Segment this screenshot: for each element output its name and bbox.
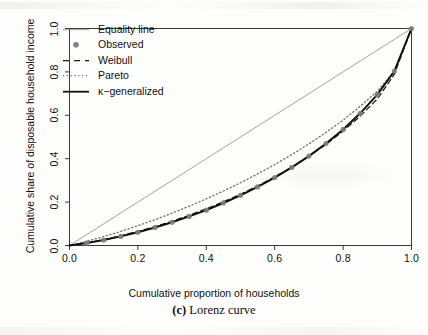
legend-label: Equality line: [98, 22, 155, 37]
legend-label: Pareto: [98, 68, 129, 83]
thin-line-key: [61, 22, 91, 37]
y-tick-label: 1.0: [48, 21, 60, 36]
y-tick-label: 0.0: [48, 238, 60, 253]
legend-label: Observed: [98, 37, 144, 52]
legend-item-generalized: κ−generalized: [61, 84, 164, 99]
lorenz-curve-figure: 0.00.20.40.60.81.0 0.00.20.40.60.81.0 Cu…: [0, 0, 428, 335]
legend-item-equalityline: Equality line: [61, 22, 164, 37]
chart-legend: Equality lineObservedWeibullParetoκ−gene…: [61, 22, 164, 99]
legend-item-pareto: Pareto: [61, 68, 164, 83]
gray-dot-key: [61, 37, 91, 52]
legend-item-observed: Observed: [61, 37, 164, 52]
x-tick-label: 1.0: [404, 252, 419, 264]
dashed-line-key: [61, 53, 91, 68]
x-tick-label: 0.2: [130, 252, 145, 264]
dotted-line-key: [61, 68, 91, 83]
y-tick-label: 0.8: [48, 64, 60, 79]
caption-tag: (c): [172, 303, 186, 317]
figure-caption: (c) Lorenz curve: [0, 303, 428, 318]
caption-text: Lorenz curve: [189, 303, 255, 317]
y-tick-label: 0.6: [48, 108, 60, 123]
y-tick-label: 0.2: [48, 194, 60, 209]
legend-label: κ−generalized: [98, 84, 164, 99]
x-tick-label: 0.4: [199, 252, 214, 264]
x-tick-label: 0.0: [62, 252, 77, 264]
x-tick-label: 0.6: [267, 252, 282, 264]
x-axis-title: Cumulative proportion of households: [0, 287, 428, 299]
y-axis-title: Cumulative share of disposable household…: [24, 11, 36, 261]
legend-item-weibull: Weibull: [61, 53, 164, 68]
y-tick-label: 0.4: [48, 151, 60, 166]
x-axis-ticks: [70, 246, 412, 251]
x-tick-label: 0.8: [335, 252, 350, 264]
legend-label: Weibull: [98, 53, 132, 68]
solid-line-key: [61, 84, 91, 99]
